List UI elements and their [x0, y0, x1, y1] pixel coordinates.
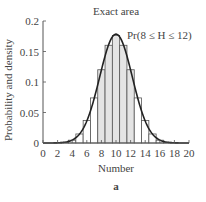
y-tick-label: 0.05 [20, 107, 40, 119]
chart-title: Exact area [93, 5, 139, 17]
histogram-bar [90, 98, 97, 143]
probability-annotation: Pr(8 ≤ H ≤ 12) [127, 29, 192, 42]
y-tick-label: 0 [34, 137, 40, 149]
x-tick-label: 14 [140, 147, 152, 159]
x-tick-label: 6 [84, 147, 90, 159]
histogram-bar [112, 36, 119, 143]
histogram-bar [149, 134, 156, 143]
x-tick-label: 18 [169, 147, 181, 159]
histogram-bar [142, 120, 149, 143]
x-tick-label: 8 [99, 147, 105, 159]
histogram-bars [54, 36, 178, 143]
x-tick-label: 10 [111, 147, 123, 159]
x-tick-label: 16 [154, 147, 166, 159]
y-tick-label: 0.15 [20, 46, 40, 58]
x-tick-label: 2 [55, 147, 61, 159]
histogram-bar [105, 45, 112, 143]
x-tick-label: 4 [69, 147, 75, 159]
y-axis-label: Probability and density [2, 38, 14, 141]
x-tick-label: 12 [125, 147, 136, 159]
y-tick-label: 0.1 [25, 76, 39, 88]
x-tick-label: 20 [184, 147, 196, 159]
x-axis-label: Number [98, 162, 134, 174]
histogram-bar [83, 120, 90, 143]
histogram-bar [134, 98, 141, 143]
x-tick-label: 0 [40, 147, 46, 159]
y-tick-label: 0.2 [25, 15, 39, 27]
histogram-bar [120, 45, 127, 143]
histogram-bar [76, 134, 83, 143]
chart: Exact area Probability and density 02468… [0, 0, 206, 202]
panel-label: a [113, 180, 119, 192]
